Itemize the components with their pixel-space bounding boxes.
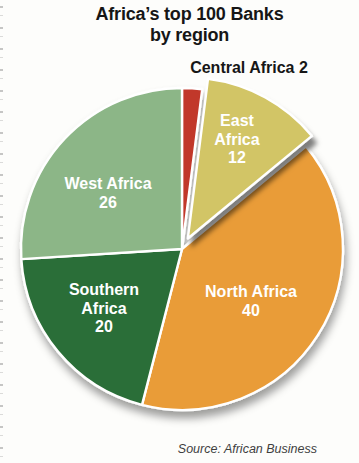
label-west-africa-name: West Africa [33, 175, 183, 194]
label-southern-africa-value: 20 [46, 318, 162, 337]
source-credit: Source: African Business [178, 442, 317, 456]
label-east-africa-name2: Africa [197, 131, 277, 150]
label-east-africa-name1: East [197, 112, 277, 131]
label-west-africa-value: 26 [33, 194, 183, 213]
label-east-africa: East Africa 12 [197, 112, 277, 168]
label-north-africa-name: North Africa [176, 283, 326, 302]
label-southern-africa-name1: Southern [46, 281, 162, 300]
label-central-africa: Central Africa 2 [169, 59, 329, 77]
label-north-africa-value: 40 [176, 302, 326, 321]
label-east-africa-value: 12 [197, 149, 277, 168]
pie-slice-west-africa [21, 88, 182, 259]
magazine-chart-page: Africa’s top 100 Banks by region Central… [0, 0, 359, 463]
label-north-africa: North Africa 40 [176, 283, 326, 320]
label-west-africa: West Africa 26 [33, 175, 183, 212]
label-southern-africa: Southern Africa 20 [46, 281, 162, 337]
label-southern-africa-name2: Africa [46, 300, 162, 319]
